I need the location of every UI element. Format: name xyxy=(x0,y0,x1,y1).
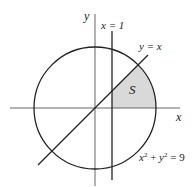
x-equals-1-label: x = 1 xyxy=(100,19,124,31)
diagram-svg: y x x = 1 y = x S x2 + y2 = 9 xyxy=(0,0,194,187)
region-s-label: S xyxy=(129,82,136,97)
y-equals-x-label: y = x xyxy=(138,40,162,52)
line-y-equals-x xyxy=(38,55,148,165)
circle-equation-label: x2 + y2 = 9 xyxy=(138,151,185,163)
diagram: y x x = 1 y = x S x2 + y2 = 9 xyxy=(0,0,194,187)
x-axis-label: x xyxy=(175,110,182,124)
y-axis-label: y xyxy=(83,9,90,23)
